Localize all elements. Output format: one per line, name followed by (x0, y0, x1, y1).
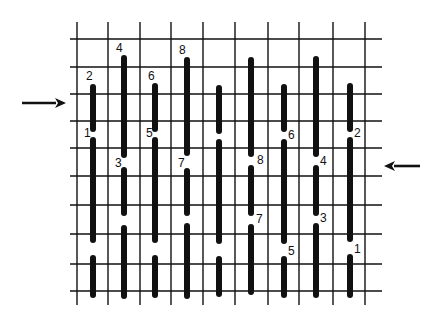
stitch-number-label: 8 (257, 153, 264, 167)
left-arrow-icon (22, 98, 66, 108)
stitch-number-label: 3 (320, 211, 327, 225)
stitch-number-label: 2 (354, 126, 361, 140)
stitch-diagram-canvas: 2143658787654321 (0, 0, 435, 318)
stitch-number-label: 1 (354, 242, 361, 256)
stitch-number-label: 8 (179, 43, 186, 57)
stitch-number-label: 2 (86, 69, 93, 83)
stitch-number-label: 3 (115, 156, 122, 170)
stitch-number-label: 6 (288, 128, 295, 142)
right-arrow-icon (384, 161, 420, 171)
stitch-number-label: 5 (288, 244, 295, 258)
stitch-diagram: 2143658787654321 (0, 0, 435, 318)
stitch-number-label: 7 (178, 156, 185, 170)
stitch-number-label: 6 (148, 69, 155, 83)
stitch-number-label: 4 (320, 154, 327, 168)
stitch-number-label: 7 (256, 212, 263, 226)
stitch-number-label: 1 (84, 126, 91, 140)
stitch-number-label: 4 (116, 41, 123, 55)
stitch-number-label: 5 (146, 126, 153, 140)
